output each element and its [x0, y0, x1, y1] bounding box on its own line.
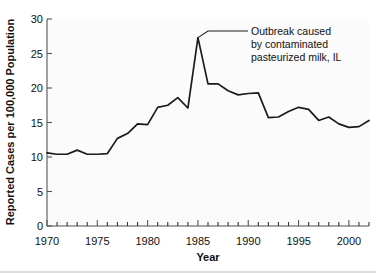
x-tick-label-1985: 1985	[186, 235, 210, 247]
y-axis-title: Reported Cases per 100,000 Population	[4, 18, 16, 225]
x-tick-label-1975: 1975	[85, 235, 109, 247]
x-axis-title: Year	[196, 251, 220, 263]
annotation-line-1: Outbreak caused	[251, 25, 331, 37]
y-axis-tick-labels: 0 5 10 15 20 25 30	[31, 13, 43, 232]
x-tick-label-1970: 1970	[35, 235, 59, 247]
annotation-line-2: by contaminated	[251, 38, 328, 50]
x-tick-label-1995: 1995	[286, 235, 310, 247]
annotation-line-3: pasteurized milk, IL	[251, 51, 342, 63]
y-tick-label-10: 10	[31, 151, 43, 163]
x-axis-tick-labels: 1970 1975 1980 1985 1990 1995 2000	[35, 235, 361, 247]
x-tick-label-2000: 2000	[337, 235, 361, 247]
line-chart: 0 5 10 15 20 25 30 1970 1975 1980 1985 1…	[0, 0, 376, 273]
x-tick-label-1990: 1990	[236, 235, 260, 247]
y-tick-label-25: 25	[31, 48, 43, 60]
annotation-outbreak: Outbreak caused by contaminated pasteuri…	[251, 25, 342, 63]
y-tick-label-5: 5	[37, 186, 43, 198]
y-tick-label-0: 0	[37, 220, 43, 232]
y-tick-label-15: 15	[31, 117, 43, 129]
chart-figure: 0 5 10 15 20 25 30 1970 1975 1980 1985 1…	[0, 0, 376, 273]
x-tick-label-1980: 1980	[135, 235, 159, 247]
y-tick-label-30: 30	[31, 13, 43, 25]
y-tick-label-20: 20	[31, 82, 43, 94]
